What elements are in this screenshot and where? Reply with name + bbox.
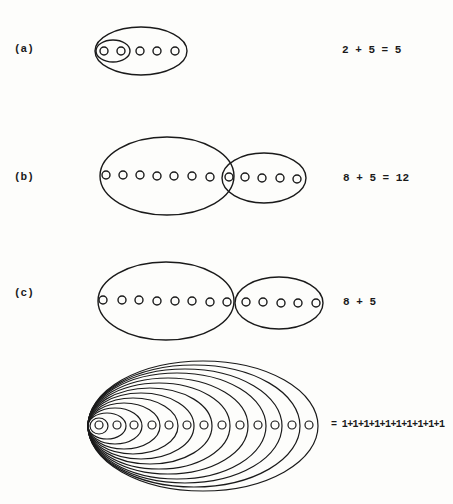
panel-c-label: (c) [14,287,34,299]
set-ellipse-outer [95,27,187,75]
panel-a-diagram [95,27,187,75]
panel-a-label: (a) [14,43,34,55]
panel-b-equation: 8 + 5 = 12 [343,172,409,184]
panel-b-diagram [100,137,306,215]
panel-a-equation: 2 + 5 = 5 [342,44,401,56]
panel-c-equation: 8 + 5 [343,296,376,308]
panel-d-equation: = 1+1+1+1+1+1+1+1+1+1 [331,419,444,430]
panel-b-label: (b) [14,171,34,183]
panel-d-diagram [88,361,318,491]
panel-c-diagram [98,262,323,340]
set-ellipse-right [235,277,323,329]
